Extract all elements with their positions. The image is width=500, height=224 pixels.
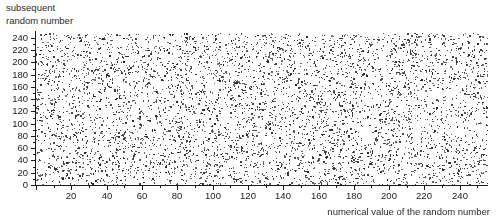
- y-tick-mark: [31, 111, 35, 112]
- x-tick-mark: [230, 186, 231, 188]
- y-axis-title: subsequent random number: [6, 2, 73, 27]
- scatter-plot-figure: subsequent random number 020406080100120…: [0, 0, 500, 224]
- y-tick-mark: [33, 167, 35, 168]
- y-tick-mark: [31, 62, 35, 63]
- y-tick-mark: [31, 160, 35, 161]
- y-axis-line: [35, 31, 36, 185]
- y-tick-mark: [33, 81, 35, 82]
- x-tick-label: 20: [56, 191, 86, 201]
- y-tick-mark: [31, 87, 35, 88]
- y-tick-mark: [33, 130, 35, 131]
- y-tick-mark: [31, 75, 35, 76]
- y-tick-label: 160: [2, 82, 28, 92]
- x-tick-label: 100: [198, 191, 228, 201]
- x-tick-mark: [407, 186, 408, 188]
- y-tick-label: 40: [2, 155, 28, 165]
- plot-area: [36, 33, 488, 185]
- x-tick-mark: [371, 186, 372, 188]
- y-tick-label: 80: [2, 131, 28, 141]
- y-tick-label: 200: [2, 57, 28, 67]
- y-tick-mark: [31, 136, 35, 137]
- y-tick-mark: [33, 44, 35, 45]
- y-tick-mark: [33, 118, 35, 119]
- y-tick-label: 140: [2, 94, 28, 104]
- y-tick-mark: [31, 148, 35, 149]
- y-tick-mark: [33, 69, 35, 70]
- x-tick-label: 220: [409, 191, 439, 201]
- y-tick-label: 220: [2, 45, 28, 55]
- x-tick-mark: [477, 186, 478, 188]
- x-tick-mark: [89, 186, 90, 188]
- y-axis-title-line-2: random number: [6, 15, 73, 28]
- x-tick-label: 140: [268, 191, 298, 201]
- y-tick-mark: [33, 154, 35, 155]
- x-tick-mark: [301, 186, 302, 188]
- y-tick-label: 180: [2, 70, 28, 80]
- y-tick-label: 60: [2, 143, 28, 153]
- x-tick-mark: [160, 186, 161, 188]
- x-tick-label: 240: [445, 191, 475, 201]
- y-tick-mark: [31, 124, 35, 125]
- y-tick-label: 240: [2, 33, 28, 43]
- y-tick-mark: [31, 173, 35, 174]
- x-tick-label: 40: [92, 191, 122, 201]
- y-tick-mark: [31, 50, 35, 51]
- y-tick-label: 100: [2, 119, 28, 129]
- x-tick-label: 80: [162, 191, 192, 201]
- x-tick-mark: [336, 186, 337, 188]
- x-axis-line: [35, 185, 488, 186]
- y-tick-mark: [33, 179, 35, 180]
- y-tick-label: 0: [2, 180, 28, 190]
- y-axis-title-line-1: subsequent: [6, 2, 73, 15]
- x-tick-label: 120: [233, 191, 263, 201]
- y-tick-label: 20: [2, 168, 28, 178]
- y-tick-mark: [31, 99, 35, 100]
- y-tick-mark: [33, 56, 35, 57]
- y-tick-mark: [33, 142, 35, 143]
- x-tick-mark: [36, 186, 37, 190]
- y-tick-mark: [33, 93, 35, 94]
- x-tick-mark: [124, 186, 125, 188]
- y-tick-label: 120: [2, 106, 28, 116]
- x-tick-mark: [54, 186, 55, 188]
- x-tick-label: 200: [374, 191, 404, 201]
- x-tick-label: 160: [304, 191, 334, 201]
- x-axis-title: numerical value of the random number: [327, 206, 490, 217]
- x-tick-label: 180: [339, 191, 369, 201]
- scatter-points-layer: [36, 33, 488, 185]
- y-tick-mark: [31, 185, 35, 186]
- x-tick-mark: [442, 186, 443, 188]
- y-tick-mark: [33, 105, 35, 106]
- x-tick-label: 60: [127, 191, 157, 201]
- x-tick-mark: [266, 186, 267, 188]
- y-tick-mark: [31, 38, 35, 39]
- x-tick-mark: [195, 186, 196, 188]
